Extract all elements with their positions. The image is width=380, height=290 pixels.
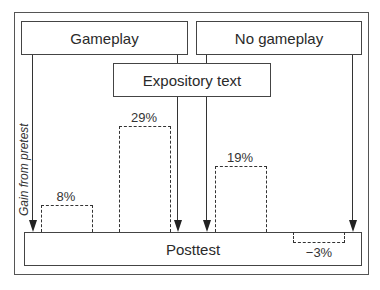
no-gameplay-expository-line: [206, 97, 207, 220]
bar-value-label: −3%: [289, 245, 349, 260]
expository-text-box: Expository text: [113, 63, 271, 97]
arrow-down-icon: [203, 220, 211, 232]
no-gameplay-right-line: [352, 55, 353, 220]
arrow-down-icon: [29, 220, 37, 232]
bar-no-gameplay-only: [293, 232, 345, 243]
gameplay-box: Gameplay: [21, 21, 188, 55]
no-gameplay-left-line-top: [206, 55, 207, 63]
no-gameplay-box: No gameplay: [196, 21, 362, 55]
bar-no-gameplay-expository: [215, 166, 267, 232]
bar-gameplay-only: [41, 205, 93, 232]
bar-gameplay-expository: [119, 126, 171, 232]
bar-value-label: 19%: [210, 150, 270, 165]
arrow-down-icon: [174, 220, 182, 232]
bar-value-label: 29%: [114, 110, 174, 125]
expository-text-label: Expository text: [143, 72, 241, 89]
gameplay-left-line: [32, 55, 33, 220]
bar-value-label: 8%: [36, 189, 96, 204]
posttest-label: Posttest: [166, 241, 220, 258]
gameplay-expository-line: [177, 97, 178, 220]
arrow-down-icon: [349, 220, 357, 232]
gameplay-label: Gameplay: [70, 30, 138, 47]
gameplay-right-line-top: [177, 55, 178, 63]
no-gameplay-label: No gameplay: [235, 30, 323, 47]
gain-axis-label: Gain from pretest: [17, 123, 31, 216]
